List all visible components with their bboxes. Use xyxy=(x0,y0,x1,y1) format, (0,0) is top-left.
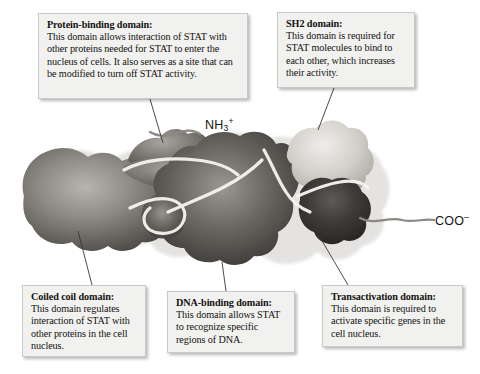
callout-protein-binding-domain: Protein-binding domain: This domain allo… xyxy=(38,13,248,99)
callout-coiled-coil-domain: Coiled coil domain: This domain regulate… xyxy=(22,285,146,357)
callout-dna-binding-domain: DNA-binding domain: This domain allows S… xyxy=(167,291,295,353)
callout-title: Coiled coil domain: xyxy=(31,291,138,303)
c-terminus-text: COO xyxy=(435,214,464,228)
stat-protein-domain-diagram: NH3+ COO– Protein-binding domain: This d… xyxy=(0,0,480,374)
callout-sh2-domain: SH2 domain: This domain is required for … xyxy=(277,12,415,88)
n-terminus-text: NH xyxy=(205,118,223,132)
c-terminus-charge: – xyxy=(464,212,469,222)
callout-title: SH2 domain: xyxy=(286,18,407,30)
callout-title: Transactivation domain: xyxy=(331,291,455,303)
callout-body: This domain allows STAT to recognize spe… xyxy=(176,309,287,346)
n-terminus-charge: + xyxy=(228,116,233,126)
c-terminus-label: COO– xyxy=(435,212,469,228)
callout-transactivation-domain: Transactivation domain: This domain is r… xyxy=(322,285,463,347)
callout-body: This domain regulates interaction of STA… xyxy=(31,303,138,352)
callout-title: Protein-binding domain: xyxy=(47,19,240,31)
callout-title: DNA-binding domain: xyxy=(176,297,287,309)
callout-body: This domain allows interaction of STAT w… xyxy=(47,31,240,80)
callout-body: This domain is required to activate spec… xyxy=(331,303,455,340)
callout-body: This domain is required for STAT molecul… xyxy=(286,30,407,79)
n-terminus-label: NH3+ xyxy=(205,116,234,133)
